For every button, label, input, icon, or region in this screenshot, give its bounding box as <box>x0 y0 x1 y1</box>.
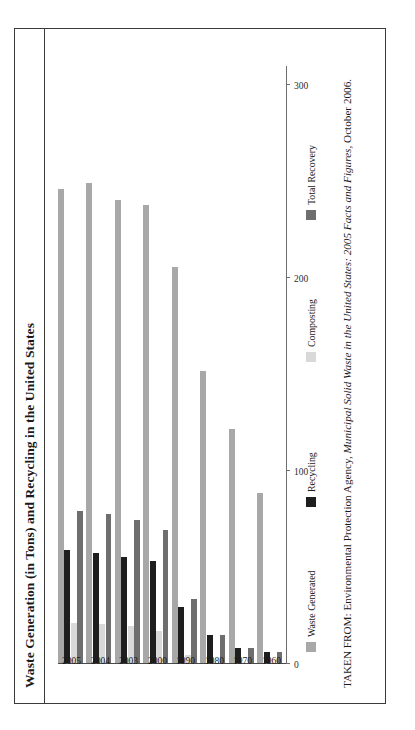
value-tick-mark <box>286 277 290 278</box>
category-label-1970: 1970 <box>233 656 252 666</box>
figure-frame: Waste Generation (in Tons) and Recycling… <box>14 28 386 704</box>
plot-area: 0100200300196019701980199020002003200420… <box>58 66 286 664</box>
composting-swatch <box>306 352 316 362</box>
legend-item-recycling: Recycling <box>306 452 317 507</box>
source-prefix: TAKEN FROM: Environmental Protection Age… <box>341 453 353 688</box>
bar-2000-waste-generated <box>143 205 149 663</box>
bar-2003-total-recovery <box>134 520 140 663</box>
legend-label: Total Recovery <box>306 145 317 205</box>
bar-2000-recycling <box>150 561 156 663</box>
legend-label: Waste Generated <box>306 571 317 637</box>
category-label-2004: 2004 <box>91 656 110 666</box>
bar-2005-recycling <box>64 550 70 663</box>
legend-item-waste-generated: Waste Generated <box>306 571 317 652</box>
source-suffix: October 2006. <box>341 79 353 146</box>
recycling-swatch <box>306 497 316 507</box>
bar-2005-waste-generated <box>58 189 64 663</box>
chart-legend: Waste GeneratedRecyclingCompostingTotal … <box>306 92 326 652</box>
source-note: TAKEN FROM: Environmental Protection Age… <box>340 38 355 688</box>
bar-1980-waste-generated <box>200 371 206 663</box>
category-label-1960: 1960 <box>262 656 281 666</box>
bar-1990-total-recovery <box>191 599 197 663</box>
legend-item-composting: Composting <box>306 299 317 362</box>
bar-1990-recycling <box>178 607 184 663</box>
title-divider <box>44 28 45 704</box>
bar-1990-waste-generated <box>172 267 178 663</box>
category-label-2000: 2000 <box>148 656 167 666</box>
bar-2004-waste-generated <box>86 183 92 663</box>
bar-2000-total-recovery <box>163 530 169 663</box>
category-label-2003: 2003 <box>119 656 138 666</box>
legend-label: Recycling <box>306 452 317 492</box>
bar-2004-total-recovery <box>106 514 112 663</box>
category-label-1990: 1990 <box>176 656 195 666</box>
legend-label: Composting <box>306 299 317 347</box>
legend-item-total-recovery: Total Recovery <box>306 145 317 220</box>
bar-2004-recycling <box>93 553 99 663</box>
total-recovery-swatch <box>306 210 316 220</box>
bar-1970-waste-generated <box>229 429 235 663</box>
category-label-2005: 2005 <box>62 656 81 666</box>
value-axis-line <box>286 66 287 664</box>
value-tick-mark <box>286 84 290 85</box>
bar-2003-recycling <box>121 557 127 663</box>
source-title: Municipal Solid Waste in the United Stat… <box>341 146 353 454</box>
value-tick-label: 0 <box>294 660 299 670</box>
value-tick-mark <box>286 470 290 471</box>
bar-2005-total-recovery <box>77 511 83 663</box>
category-label-1980: 1980 <box>205 656 224 666</box>
bar-2003-waste-generated <box>115 200 121 663</box>
rotated-chart-stage: Waste Generation (in Tons) and Recycling… <box>14 28 386 704</box>
page-title: Waste Generation (in Tons) and Recycling… <box>22 323 38 688</box>
value-tick-mark <box>286 663 290 664</box>
bar-1960-waste-generated <box>257 493 263 663</box>
value-tick-label: 300 <box>294 81 308 91</box>
waste-generated-swatch <box>306 642 316 652</box>
